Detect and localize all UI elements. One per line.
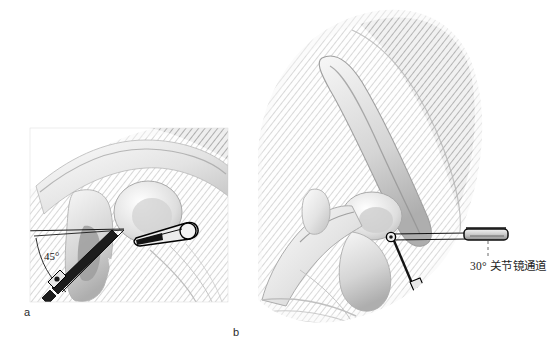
- panel-label-b: b: [233, 326, 239, 338]
- panel-label-a: a: [24, 306, 30, 318]
- scope-barrel: [464, 229, 508, 240]
- figure-root: 45° a b 30° 关节镜通道: [0, 0, 560, 359]
- panel-b-artwork: [258, 10, 482, 334]
- illustration-canvas: [0, 0, 560, 359]
- panel-a-artwork: [20, 125, 228, 304]
- anterior-bone-nub: [302, 189, 330, 234]
- angle-annotation-45: 45°: [44, 250, 59, 262]
- portal-callout-label: 30° 关节镜通道: [470, 257, 547, 273]
